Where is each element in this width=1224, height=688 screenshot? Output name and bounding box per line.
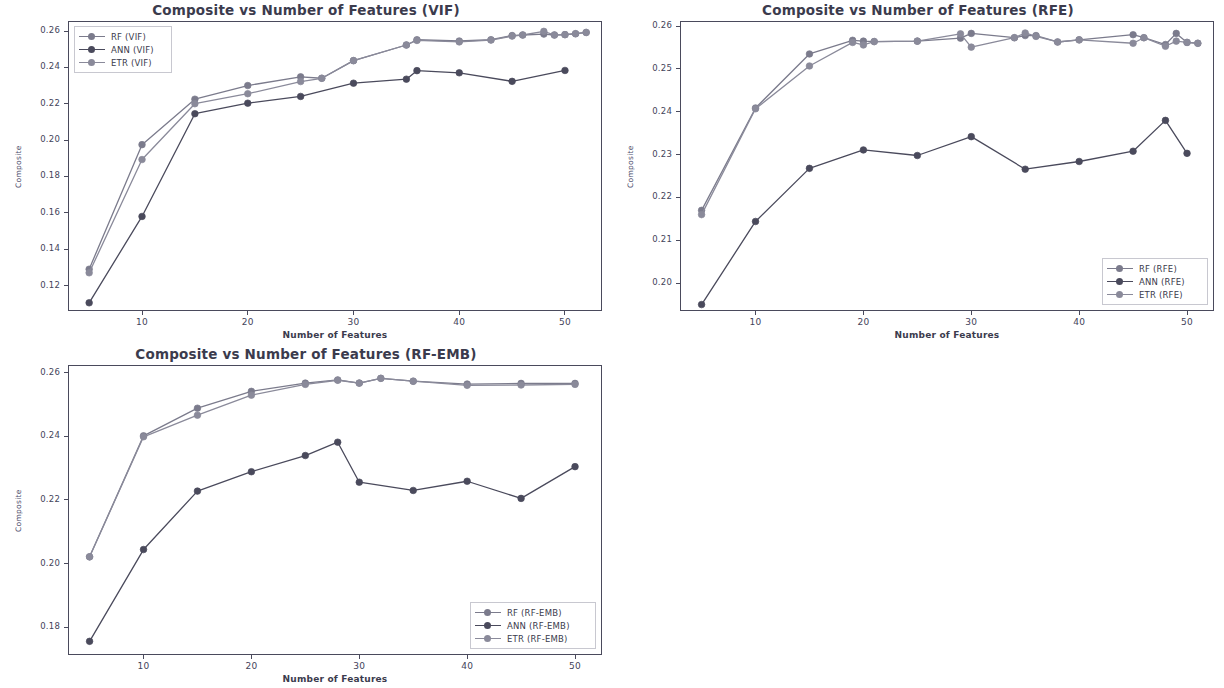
legend-marker-icon xyxy=(475,634,501,644)
legend-item-ann[interactable]: ANN (RFE) xyxy=(1107,275,1201,288)
data-point xyxy=(297,78,304,85)
legend-label: ANN (VIF) xyxy=(111,45,154,55)
y-axis-label-rfemb: Composite xyxy=(14,489,23,532)
legend-item-etr[interactable]: ETR (RF-EMB) xyxy=(475,632,589,645)
x-tick-label: 30 xyxy=(334,317,374,327)
series-etr-rfe xyxy=(698,30,1201,218)
data-point xyxy=(806,165,813,172)
data-point xyxy=(244,100,251,107)
legend-rfe[interactable]: RF (RFE)ANN (RFE)ETR (RFE) xyxy=(1102,258,1208,305)
series-line xyxy=(702,33,1198,210)
data-point xyxy=(248,392,255,399)
x-tick-label: 50 xyxy=(1167,317,1207,327)
data-point xyxy=(968,133,975,140)
legend-label: ETR (RFE) xyxy=(1139,290,1183,300)
y-tick-label: 0.14 xyxy=(14,243,60,253)
legend-item-ann[interactable]: ANN (RF-EMB) xyxy=(475,619,589,632)
x-tickmark xyxy=(564,311,565,315)
x-tick-label: 20 xyxy=(231,661,271,671)
data-point xyxy=(1076,37,1083,44)
data-point xyxy=(350,57,357,64)
chart-panel-rfemb: Composite vs Number of Features (RF-EMB)… xyxy=(0,344,612,688)
legend-item-rf[interactable]: RF (VIF) xyxy=(79,30,165,43)
legend-item-ann[interactable]: ANN (VIF) xyxy=(79,43,165,56)
y-tick-label: 0.25 xyxy=(626,63,672,73)
data-point xyxy=(551,32,558,39)
data-point xyxy=(698,211,705,218)
y-tick-label: 0.24 xyxy=(14,61,60,71)
legend-item-rf[interactable]: RF (RF-EMB) xyxy=(475,606,589,619)
series-line xyxy=(90,378,575,557)
x-tickmark xyxy=(247,311,248,315)
data-point xyxy=(698,301,705,308)
data-point xyxy=(248,468,255,475)
legend-item-rf[interactable]: RF (RFE) xyxy=(1107,262,1201,275)
y-tick-label: 0.24 xyxy=(626,106,672,116)
x-tick-label: 40 xyxy=(1059,317,1099,327)
data-point xyxy=(1141,34,1148,41)
x-tickmark xyxy=(353,311,354,315)
legend-marker-icon xyxy=(475,608,501,618)
data-point xyxy=(1162,43,1169,50)
data-point xyxy=(849,39,856,46)
data-point xyxy=(194,412,201,419)
y-tick-label: 0.20 xyxy=(14,134,60,144)
x-tick-label: 10 xyxy=(736,317,776,327)
x-tick-label: 20 xyxy=(843,317,883,327)
data-point xyxy=(509,33,516,40)
x-tickmark xyxy=(359,655,360,659)
data-point xyxy=(334,377,341,384)
data-point xyxy=(140,546,147,553)
chart-panel-vif: Composite vs Number of Features (VIF)0.1… xyxy=(0,0,612,344)
legend-label: RF (RFE) xyxy=(1139,264,1177,274)
data-point xyxy=(86,638,93,645)
data-point xyxy=(140,433,147,440)
data-point xyxy=(139,141,146,148)
data-point xyxy=(1054,39,1061,46)
legend-marker-icon xyxy=(79,45,105,55)
y-tick-label: 0.22 xyxy=(626,191,672,201)
data-point xyxy=(957,31,964,38)
legend-label: ETR (VIF) xyxy=(111,58,152,68)
y-tick-label: 0.20 xyxy=(14,558,60,568)
legend-item-etr[interactable]: ETR (VIF) xyxy=(79,56,165,69)
data-point xyxy=(403,42,410,49)
legend-marker-icon xyxy=(1107,290,1133,300)
data-point xyxy=(410,487,417,494)
x-tick-label: 50 xyxy=(555,661,595,671)
data-point xyxy=(139,156,146,163)
data-point xyxy=(541,28,548,35)
data-point xyxy=(1173,30,1180,37)
series-line xyxy=(89,70,565,302)
data-point xyxy=(318,75,325,82)
x-axis-label-rfe: Number of Features xyxy=(680,330,1214,340)
legend-vif[interactable]: RF (VIF)ANN (VIF)ETR (VIF) xyxy=(74,26,172,73)
chart-panel-rfe: Composite vs Number of Features (RFE)0.2… xyxy=(612,0,1224,344)
x-tickmark xyxy=(467,655,468,659)
series-line xyxy=(90,378,575,557)
data-point xyxy=(192,110,199,117)
legend-rfemb[interactable]: RF (RF-EMB)ANN (RF-EMB)ETR (RF-EMB) xyxy=(470,602,596,649)
data-point xyxy=(86,554,93,561)
x-tick-label: 40 xyxy=(447,661,487,671)
y-tick-label: 0.16 xyxy=(14,207,60,217)
chart-title-rfemb: Composite vs Number of Features (RF-EMB) xyxy=(0,346,612,362)
x-tickmark xyxy=(459,311,460,315)
data-point xyxy=(752,106,759,113)
x-tick-label: 40 xyxy=(439,317,479,327)
legend-label: RF (RF-EMB) xyxy=(507,608,562,618)
data-point xyxy=(1130,40,1137,47)
series-line xyxy=(702,33,1198,215)
data-point xyxy=(562,67,569,74)
data-point xyxy=(86,300,93,307)
legend-marker-icon xyxy=(1107,277,1133,287)
y-axis-label-rfe: Composite xyxy=(626,145,635,188)
chart-title-rfe: Composite vs Number of Features (RFE) xyxy=(612,2,1224,18)
x-tick-label: 50 xyxy=(545,317,585,327)
data-point xyxy=(968,44,975,51)
legend-label: ANN (RF-EMB) xyxy=(507,621,570,631)
x-tick-label: 30 xyxy=(339,661,379,671)
legend-item-etr[interactable]: ETR (RFE) xyxy=(1107,288,1201,301)
y-tick-label: 0.18 xyxy=(14,621,60,631)
data-point xyxy=(860,147,867,154)
